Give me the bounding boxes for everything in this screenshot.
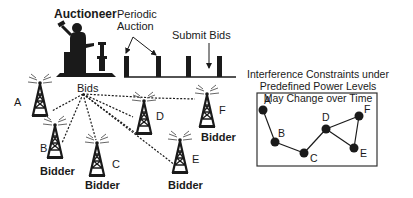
auctioneer-label: Auctioneer [54,7,117,21]
graph-title-1: Interference Constraints under [247,68,389,80]
graph-nodes [259,106,364,158]
tower-E: E Bidder [168,131,204,191]
node-label-D: D [322,111,330,123]
node-label-F: F [364,103,370,115]
edge-C-D [304,129,326,153]
edge-D-F [326,116,359,129]
tower-label-E: E [192,153,199,165]
tower-label-D: D [156,110,164,122]
bidder-label-E: Bidder [168,179,204,191]
auction-pulse-3 [186,56,191,77]
graph-title-3: May Change over Time [264,92,373,104]
tower-A: A [14,74,52,117]
periodic-label-2: Auction [117,20,154,32]
edge-B-C [275,142,304,153]
node-C [300,149,309,158]
edge-E-F [354,116,359,148]
auction-pulse-1 [124,56,129,77]
bids-label: Bids [77,82,99,94]
node-F [355,112,364,121]
auction-timeline [124,37,236,77]
bidder-label-B: Bidder [40,165,76,177]
tower-C: C Bidder [85,134,121,191]
edge-D-E [326,129,354,148]
tower-label-A: A [14,96,22,108]
auction-pulse-4 [217,56,222,77]
graph-title-2: Predefined Power Levels [260,80,377,92]
node-label-E: E [360,147,367,159]
node-E [350,144,359,153]
tower-icon [28,74,52,117]
tower-label-F: F [219,104,226,116]
node-D [322,125,331,134]
bidder-label-F: Bidder [201,131,237,143]
submit-bids-label: Submit Bids [172,29,231,41]
periodic-label-1: Periodic [117,8,157,20]
node-label-B: B [278,127,285,139]
tower-label-C: C [112,158,120,170]
auctioneer-icon [56,20,116,77]
tower-icon [195,85,219,128]
tower-F: F Bidder [195,85,237,143]
tower-icon [85,134,109,177]
tower-icon [168,131,192,174]
bid-links [52,94,195,165]
node-label-A: A [264,94,271,106]
node-A [259,106,268,115]
tower-label-B: B [40,142,47,154]
edge-A-B [263,110,275,142]
auction-diagram: Auctioneer Periodic Auction Submit Bids … [0,0,413,198]
bidder-label-C: Bidder [85,179,121,191]
auction-pulse-2 [156,56,161,77]
node-label-C: C [310,152,318,164]
